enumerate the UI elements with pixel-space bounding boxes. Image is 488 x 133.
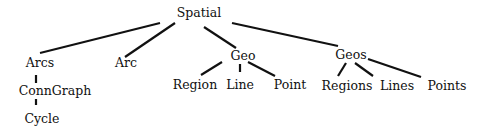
edge-geo-point — [248, 62, 275, 76]
node-arcs: Arcs — [26, 56, 54, 70]
tree-diagram: Spatial Arcs Arc Geo Geos Region Line Po… — [0, 0, 488, 133]
node-geos: Geos — [335, 48, 366, 62]
node-cycle: Cycle — [24, 112, 59, 126]
node-point: Point — [274, 78, 307, 92]
edge-geos-regions — [338, 63, 346, 76]
edge-spatial-arcs — [40, 23, 160, 53]
edge-geo-region — [201, 62, 222, 75]
edge-spatial-geo — [204, 27, 236, 48]
tree-edges — [0, 0, 488, 133]
node-geo: Geo — [231, 49, 256, 63]
node-region: Region — [173, 78, 217, 92]
node-lines: Lines — [380, 79, 414, 93]
node-points: Points — [428, 79, 467, 93]
edge-spatial-geos — [232, 23, 338, 46]
edge-geos-points — [368, 59, 421, 77]
edge-geos-lines — [355, 63, 373, 76]
node-regions: Regions — [322, 79, 373, 93]
node-line: Line — [226, 78, 254, 92]
node-spatial: Spatial — [177, 6, 222, 20]
edge-spatial-arc — [125, 23, 175, 57]
node-arc: Arc — [115, 56, 137, 70]
node-conngraph: ConnGraph — [19, 84, 92, 98]
